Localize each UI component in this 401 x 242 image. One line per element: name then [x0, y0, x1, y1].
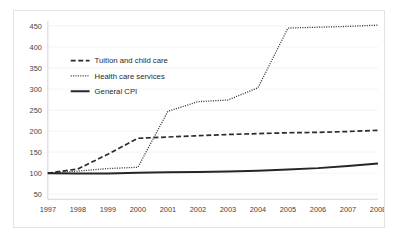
- y-axis-tick-label: 400: [30, 43, 42, 52]
- chart-container: 50100150200250300350400450 1997199819992…: [13, 10, 385, 228]
- x-axis-tick-labels: 1997199819992000200120022003200420052006…: [40, 205, 384, 214]
- x-axis-tick-label: 2007: [340, 205, 356, 214]
- y-axis-tick-label: 200: [30, 127, 42, 136]
- gridlines: [48, 26, 378, 194]
- x-axis-tick-label: 2001: [160, 205, 176, 214]
- series-line: [48, 164, 378, 174]
- x-axis-tick-label: 2006: [310, 205, 326, 214]
- y-axis-tick-labels: 50100150200250300350400450: [30, 22, 42, 199]
- x-axis-tick-label: 2002: [190, 205, 206, 214]
- x-axis-tick-label: 2000: [130, 205, 146, 214]
- y-axis-tick-label: 250: [30, 106, 42, 115]
- x-axis-tick-label: 2008: [370, 205, 384, 214]
- line-chart: 50100150200250300350400450 1997199819992…: [14, 11, 384, 227]
- x-axis-tick-label: 1998: [70, 205, 86, 214]
- x-axis-tick-label: 2005: [280, 205, 296, 214]
- x-axis-tick-label: 2003: [220, 205, 236, 214]
- x-axis-tick-label: 1997: [40, 205, 56, 214]
- y-axis-tick-label: 300: [30, 85, 42, 94]
- y-axis-tick-label: 50: [34, 190, 42, 199]
- x-axis-tick-label: 2004: [250, 205, 266, 214]
- legend-label: Tuition and child care: [95, 56, 168, 65]
- data-series: [48, 25, 378, 173]
- chart-legend: Tuition and child careHealth care servic…: [71, 56, 168, 96]
- legend-label: Health care services: [95, 72, 165, 81]
- y-axis-tick-label: 450: [30, 22, 42, 31]
- y-axis-tick-label: 150: [30, 148, 42, 157]
- x-axis-tick-label: 1999: [100, 205, 116, 214]
- legend-label: General CPI: [95, 87, 138, 96]
- y-axis-tick-label: 100: [30, 169, 42, 178]
- y-axis-tick-label: 350: [30, 64, 42, 73]
